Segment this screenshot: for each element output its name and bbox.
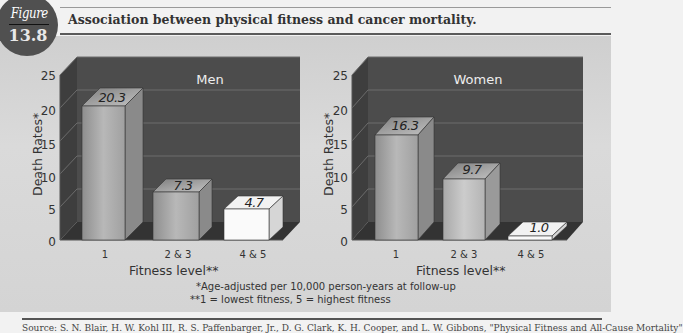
source-rule	[22, 318, 602, 320]
women-bar-1	[375, 117, 434, 240]
footnote-fitness-scale: **1 = lowest fitness, 5 = highest fitnes…	[190, 294, 391, 305]
men-xtick-3: 4 & 5	[228, 249, 278, 260]
women-ytick-25: 25	[328, 69, 348, 83]
women-xtick-2: 2 & 3	[439, 249, 489, 260]
men-bar-1	[82, 88, 143, 240]
men-panel-title: Men	[170, 72, 250, 87]
women-ytick-5: 5	[328, 203, 348, 217]
women-bar-1-value: 16.3	[380, 118, 430, 133]
source-citation: Source: S. N. Blair, H. W. Kohl III, R. …	[22, 323, 683, 333]
women-side-wall	[352, 57, 368, 240]
men-y-axis-title: Death Rates*	[30, 113, 45, 196]
women-bar-3-value: 1.0	[514, 220, 564, 235]
men-x-axis-title: Fitness level**	[129, 263, 219, 278]
women-panel-title: Women	[433, 72, 523, 87]
men-bar-2-value: 7.3	[158, 178, 208, 193]
women-y-axis-title: Death Rates*	[321, 113, 336, 196]
men-bar-3-value: 4.7	[229, 195, 279, 210]
men-ytick-5: 5	[36, 203, 56, 217]
men-side-wall	[60, 57, 77, 240]
men-xtick-2: 2 & 3	[153, 249, 203, 260]
women-xtick-3: 4 & 5	[506, 249, 556, 260]
women-x-axis-title: Fitness level**	[416, 263, 506, 278]
women-ytick-0: 0	[328, 235, 348, 249]
men-ytick-0: 0	[36, 235, 56, 249]
men-ytick-25: 25	[36, 69, 56, 83]
women-bar-2-value: 9.7	[447, 162, 497, 177]
footnote-age-adjusted: *Age-adjusted per 10,000 person-years at…	[196, 281, 456, 292]
women-xtick-1: 1	[371, 249, 421, 260]
men-bar-1-value: 20.3	[87, 90, 137, 105]
men-xtick-1: 1	[80, 249, 130, 260]
